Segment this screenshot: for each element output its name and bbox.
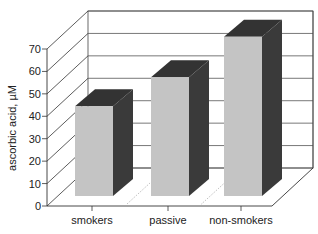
y-tick-label: 30 — [29, 133, 41, 145]
bar-smokers — [75, 89, 133, 196]
y-tick-label: 50 — [29, 88, 41, 100]
y-tick-label: 70 — [29, 43, 41, 55]
y-tick-label: 60 — [29, 65, 41, 77]
x-tick-label: non-smokers — [209, 214, 273, 226]
bar-chart-3d: 010203040506070smokerspassivenon-smokers… — [0, 0, 318, 234]
y-tick-label: 10 — [29, 178, 41, 190]
x-tick-label: passive — [149, 214, 186, 226]
y-tick-label: 20 — [29, 155, 41, 167]
bar-passive — [151, 60, 209, 196]
x-tick-label: smokers — [71, 214, 113, 226]
bar-non-smokers — [224, 20, 282, 196]
y-tick-label: 0 — [35, 200, 41, 212]
y-tick-label: 40 — [29, 110, 41, 122]
bars — [75, 20, 282, 196]
y-axis-label: ascorbic acid, µM — [6, 85, 18, 171]
